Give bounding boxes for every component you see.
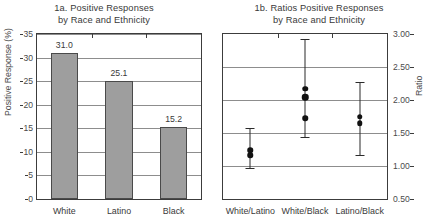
error-bar-cap-upper-0 [246,128,255,129]
panel-1a-y-axis-label: Positive Response (%) [3,28,13,116]
panel-1a-y-tick-label: 15 [23,123,37,133]
panel-1b-y-axis-label: Ratio [414,76,424,96]
error-bar-cap-lower-2 [355,155,364,156]
x-tick-label-white: White [53,206,76,216]
data-point-2-0 [357,114,363,120]
bar-black [160,127,187,199]
figure-container: 1a. Positive Responses by Race and Ethni… [0,0,430,224]
panel-1b-y-tick-label: 2.50 [387,62,410,72]
data-point-1-0 [302,86,308,92]
error-bar-cap-lower-0 [246,168,255,169]
panel-1a-y-tick-label: 0 [28,194,37,204]
panel-1b-y-tick-label: 0.50 [387,194,410,204]
panel-1a-title-line1: 1a. Positive Responses [54,3,153,13]
error-bar-cap-upper-1 [301,39,310,40]
panel-1b-title-line2: by Race and Ethnicity [208,15,430,27]
x-tick-label-black: Black [163,206,185,216]
bar-white [51,53,78,199]
panel-1a-y-tick-label: 10 [23,147,37,157]
x-tick-label-white-black: White/Black [282,206,329,216]
panel-1a-y-tick-label: 35 [23,29,37,39]
error-bar-cap-lower-1 [301,137,310,138]
panel-1b-y-tick-label: 1.00 [387,161,410,171]
panel-1b-gridline [223,166,387,167]
panel-1a-title-line2: by Race and Ethnicity [0,15,208,27]
panel-1a-x-tick-mark [146,34,147,38]
panel-1a: 1a. Positive Responses by Race and Ethni… [0,0,208,224]
bar-value-label-white: 31.0 [56,40,73,50]
x-tick-label-latino-black: Latino/Black [335,206,383,216]
panel-1a-title: 1a. Positive Responses by Race and Ethni… [0,3,208,26]
bar-value-label-latino: 25.1 [111,68,128,78]
panel-1b-y-tick-label: 2.00 [387,95,410,105]
panel-1b-title: 1b. Ratios Positive Responses by Race an… [208,3,430,26]
error-bar-cap-upper-2 [355,82,364,83]
panel-1b: 1b. Ratios Positive Responses by Race an… [208,0,430,224]
panel-1a-y-tick-label: 20 [23,100,37,110]
data-point-1-2 [302,116,308,122]
data-point-2-1 [357,120,363,126]
panel-1a-y-tick-label: 5 [28,170,37,180]
panel-1b-x-tick-mark [278,34,279,38]
bar-value-label-black: 15.2 [165,114,182,124]
panel-1a-gridline [37,34,201,35]
panel-1b-y-tick-label: 3.00 [387,29,410,39]
panel-1a-plot-area: 0510152025303531.0White25.1Latino15.2Bla… [36,33,202,200]
panel-1b-title-line1: 1b. Ratios Positive Responses [255,3,384,13]
panel-1a-x-tick-mark [92,34,93,38]
panel-1b-plot-area: 0.501.001.502.002.503.00White/LatinoWhit… [222,33,388,200]
x-tick-label-latino: Latino [107,206,131,216]
bar-latino [105,81,132,199]
panel-1a-y-tick-label: 30 [23,53,37,63]
x-tick-label-white-latino: White/Latino [226,206,275,216]
panel-1b-x-tick-mark [332,34,333,38]
panel-1b-y-tick-label: 1.50 [387,128,410,138]
data-point-0-1 [248,153,254,159]
data-point-1-1 [302,94,309,101]
panel-1a-y-tick-label: 25 [23,76,37,86]
